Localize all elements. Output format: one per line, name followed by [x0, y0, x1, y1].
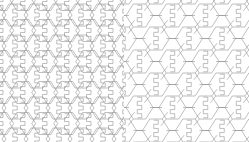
tessellation-cell [176, 27, 203, 50]
tessellation-motif [161, 73, 166, 80]
tessellation-motif [236, 5, 241, 26]
tessellation-motif [177, 96, 182, 103]
tessellation-motif [154, 28, 159, 49]
tessellation-cell [112, 4, 124, 26]
tessellation-cell [126, 50, 153, 73]
tessellation-cell [209, 119, 236, 142]
tessellation-motif [227, 119, 232, 126]
tessellation-motif [243, 96, 248, 103]
sparse-tessellation-strokes [124, 0, 249, 142]
tessellation-motif [154, 0, 159, 3]
tessellation-motif [13, 129, 18, 142]
tessellation-motif [129, 66, 134, 73]
tessellation-motif [179, 135, 184, 142]
tessellation-cell [90, 128, 116, 142]
pattern-panel-dense-hexagon-tessellation [0, 0, 124, 142]
tessellation-motif [129, 20, 134, 27]
tessellation-motif [194, 73, 199, 80]
tessellation-cell [143, 73, 170, 96]
tessellation-cell [126, 96, 153, 119]
tessellation-motif [187, 0, 192, 3]
tessellation-cell [24, 128, 50, 142]
tessellation-motif [228, 20, 233, 27]
tessellation-cell [112, 128, 124, 142]
tessellation-cell [143, 27, 170, 50]
tessellation-motif [212, 135, 217, 142]
tessellation-cell [225, 50, 249, 73]
tessellation-motif [220, 74, 225, 95]
tessellation-motif [128, 73, 133, 80]
tessellation-motif [124, 0, 125, 3]
tessellation-cell [192, 50, 219, 73]
tessellation-motif [195, 20, 200, 27]
tessellation-motif [57, 129, 62, 142]
tessellation-motif [228, 66, 233, 73]
tessellation-cell [112, 35, 124, 57]
tessellation-motif [212, 89, 217, 96]
tessellation-motif [162, 20, 167, 27]
tessellation-cell [176, 0, 203, 4]
tessellation-motif [220, 28, 225, 49]
pattern-panel-sparse-linked-hexagon-tessellation [124, 0, 249, 142]
tessellation-cell [176, 73, 203, 96]
tessellation-motif [177, 50, 182, 57]
tessellation-cell [225, 4, 249, 27]
tessellation-cell [159, 96, 186, 119]
tessellation-motif [195, 66, 200, 73]
tessellation-motif [101, 129, 106, 142]
tessellation-motif [146, 89, 151, 96]
tessellation-cell [124, 0, 137, 4]
tessellation-motif [137, 51, 142, 72]
tessellation-cell [46, 128, 72, 142]
tessellation-motif [129, 112, 134, 119]
tessellation-motif [170, 51, 175, 72]
tessellation-motif [203, 5, 208, 26]
tessellation-cell [112, 97, 124, 119]
tessellation-cell [209, 0, 236, 4]
tessellation-motif [243, 50, 248, 57]
tessellation-cell [209, 27, 236, 50]
tessellation-motif [137, 5, 142, 26]
tessellation-cell [68, 128, 94, 142]
tessellation-cell [192, 96, 219, 119]
tessellation-cell [192, 4, 219, 27]
tessellation-motif [144, 4, 149, 11]
tessellation-motif [187, 120, 192, 141]
tessellation-motif [154, 74, 159, 95]
tessellation-motif [162, 66, 167, 73]
tessellation-motif [187, 74, 192, 95]
tessellation-motif [194, 27, 199, 34]
tessellation-motif [124, 28, 125, 49]
tessellation-motif [161, 119, 166, 126]
tessellation-cell [143, 0, 170, 4]
tessellation-motif [146, 43, 151, 50]
tessellation-motif [170, 5, 175, 26]
tessellation-motif [124, 120, 125, 141]
tessellation-motif [236, 97, 241, 118]
tessellation-motif [203, 97, 208, 118]
tessellation-cell [126, 4, 153, 27]
tessellation-motif [177, 4, 182, 11]
tessellation-motif [243, 4, 248, 11]
tessellation-motif [144, 96, 149, 103]
tessellation-motif [236, 51, 241, 72]
tessellation-motif [144, 50, 149, 57]
tessellation-motif [179, 43, 184, 50]
tessellation-motif [179, 89, 184, 96]
tessellation-motif [161, 27, 166, 34]
tessellation-motif [79, 129, 84, 142]
tessellation-motif [194, 119, 199, 126]
tessellation-motif [210, 4, 215, 11]
tessellation-cell [112, 66, 124, 88]
tessellation-motif [170, 97, 175, 118]
tessellation-cell [225, 96, 249, 119]
tessellation-motif [228, 112, 233, 119]
tessellation-motif [146, 135, 151, 142]
tessellation-motif [124, 74, 125, 95]
tessellation-figure [0, 0, 249, 142]
tessellation-motif [203, 51, 208, 72]
tessellation-motif [210, 50, 215, 57]
tessellation-motif [220, 120, 225, 141]
tessellation-motif [220, 0, 225, 3]
dense-tessellation-strokes [0, 0, 124, 142]
